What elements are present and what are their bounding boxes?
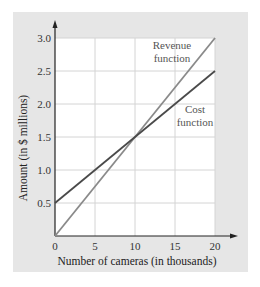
chart: 0.5 1.0 1.5 2.0 2.5 3.0 0 5 10 15 20 Num… (0, 0, 260, 287)
y-tick-label: 3.0 (37, 32, 51, 44)
x-tick-label: 5 (92, 240, 98, 252)
y-tick-label: 1.5 (37, 131, 51, 143)
revenue-annotation-line1: Revenue (153, 39, 192, 51)
x-tick-label: 20 (210, 240, 222, 252)
y-axis-label: Amount (in $ millions) (17, 95, 30, 202)
x-axis-label: Number of cameras (in thousands) (57, 255, 216, 268)
y-tick-label: 1.0 (37, 164, 51, 176)
cost-annotation-line2: function (177, 116, 214, 128)
y-tick-label: 2.0 (37, 98, 51, 110)
y-tick-label: 0.5 (37, 197, 51, 209)
cost-annotation-line1: Cost (185, 103, 205, 115)
revenue-annotation-line2: function (154, 52, 191, 64)
x-tick-label: 0 (52, 240, 58, 252)
x-tick-label: 15 (170, 240, 182, 252)
x-tick-label: 10 (130, 240, 142, 252)
y-tick-label: 2.5 (37, 65, 51, 77)
